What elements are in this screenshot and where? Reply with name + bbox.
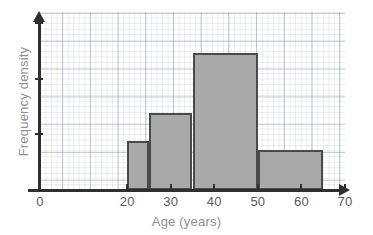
x-axis-tick	[257, 184, 259, 191]
x-axis-tick	[170, 184, 172, 191]
x-axis-tick-label: 20	[120, 194, 135, 209]
x-axis-tick-label: 50	[250, 194, 265, 209]
histogram-chart: 0203040506070 Age (years) Frequency dens…	[0, 0, 373, 235]
y-axis-title: Frequency density	[16, 27, 31, 177]
histogram-bar	[258, 150, 323, 190]
histogram-bar	[127, 141, 149, 190]
x-axis-tick-label: 0	[36, 194, 43, 209]
x-axis-tick	[213, 184, 215, 191]
x-axis-tick	[344, 184, 346, 191]
x-axis-tick-label: 60	[294, 194, 309, 209]
x-axis-tick-label: 40	[207, 194, 222, 209]
x-axis-line	[28, 189, 340, 192]
x-axis-tick-label: 70	[338, 194, 353, 209]
histogram-bar	[193, 53, 258, 190]
x-axis-title: Age (years)	[0, 214, 373, 229]
x-axis-tick	[126, 184, 128, 191]
x-axis-tick	[300, 184, 302, 191]
y-axis-tick	[35, 22, 43, 24]
y-axis-tick	[35, 78, 43, 80]
x-axis-tick-label: 30	[163, 194, 178, 209]
y-axis-line	[38, 22, 41, 192]
histogram-bar	[149, 113, 193, 190]
y-axis-arrow-icon	[33, 11, 45, 22]
y-axis-tick	[35, 133, 43, 135]
